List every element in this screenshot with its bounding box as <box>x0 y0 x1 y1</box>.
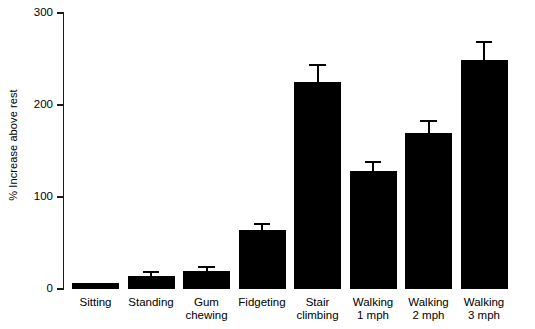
x-axis-label: Walking3 mph <box>455 296 514 321</box>
y-tick-mark <box>57 12 64 13</box>
error-bar-stem <box>428 122 430 133</box>
y-tick-mark <box>57 288 64 289</box>
y-tick-mark <box>57 196 64 197</box>
bar-group <box>239 0 286 289</box>
error-bar-cap <box>309 64 326 66</box>
x-axis-label: Sitting <box>66 296 125 309</box>
error-bar-stem <box>372 163 374 171</box>
y-tick-label: 0 <box>13 283 53 294</box>
error-bar-cap <box>198 266 215 268</box>
error-bar-cap <box>420 120 437 122</box>
bar-chart-figure: % Increase above rest 0100200300 Sitting… <box>0 0 535 329</box>
bar-group <box>72 0 119 289</box>
error-bar-stem <box>483 43 485 60</box>
x-axis-label-line1: Walking <box>408 296 448 308</box>
x-axis-label: Fidgeting <box>233 296 292 309</box>
bar <box>405 133 452 289</box>
bar <box>461 60 508 289</box>
x-axis-label-line2: climbing <box>288 309 347 322</box>
x-axis-label-line1: Gum <box>194 296 219 308</box>
x-axis-label-line2: chewing <box>177 309 236 322</box>
y-axis-title: % Increase above rest <box>4 0 22 290</box>
bar-group <box>350 0 397 289</box>
bar <box>183 271 230 289</box>
y-tick-label: 300 <box>13 7 53 18</box>
error-bar-stem <box>261 225 263 231</box>
bar-group <box>461 0 508 289</box>
x-axis-label: Stairclimbing <box>288 296 347 321</box>
error-bar-cap <box>365 161 382 163</box>
x-axis-label-line2: 1 mph <box>344 309 403 322</box>
error-bar-cap <box>476 41 493 43</box>
bar <box>128 276 175 289</box>
x-axis-label: Walking1 mph <box>344 296 403 321</box>
error-bar-cap <box>143 271 160 273</box>
bar <box>350 171 397 289</box>
x-axis-label: Standing <box>122 296 181 309</box>
bar-group <box>405 0 452 289</box>
y-axis-title-text: % Increase above rest <box>4 0 22 290</box>
bar <box>239 230 286 289</box>
error-bar-stem <box>206 268 208 271</box>
bar-group <box>128 0 175 289</box>
y-tick-label: 200 <box>13 99 53 110</box>
error-bar-stem <box>150 273 152 276</box>
y-tick-label: 100 <box>13 191 53 202</box>
x-axis-label: Gumchewing <box>177 296 236 321</box>
plot-area <box>64 0 535 290</box>
error-bar-cap <box>254 223 271 225</box>
x-axis-label-line1: Walking <box>464 296 504 308</box>
x-axis-label-line2: 3 mph <box>455 309 514 322</box>
x-axis-label-line1: Standing <box>128 296 173 308</box>
bar-group <box>183 0 230 289</box>
x-axis-label-line1: Stair <box>306 296 330 308</box>
x-axis-label-line1: Walking <box>353 296 393 308</box>
x-axis-label-line1: Sitting <box>80 296 112 308</box>
error-bar-stem <box>317 66 319 82</box>
bar-group <box>294 0 341 289</box>
bar <box>72 283 119 289</box>
y-tick-mark <box>57 104 64 105</box>
x-axis-label-line2: 2 mph <box>399 309 458 322</box>
x-axis-label-line1: Fidgeting <box>238 296 285 308</box>
bar <box>294 82 341 289</box>
x-axis-label: Walking2 mph <box>399 296 458 321</box>
